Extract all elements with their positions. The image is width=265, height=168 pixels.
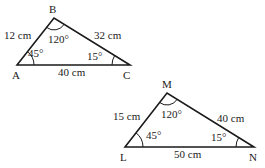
side-label-bc: 32 cm — [94, 29, 122, 41]
triangle-lmn: L M N 15 cm 40 cm 50 cm 45° 120° 15° — [113, 78, 257, 163]
vertex-label-n: N — [249, 151, 257, 163]
vertex-label-a: A — [12, 69, 20, 81]
side-label-ln: 50 cm — [174, 148, 202, 160]
side-label-lm: 15 cm — [113, 110, 141, 122]
vertex-label-c: C — [123, 69, 130, 81]
angle-label-a: 45° — [28, 47, 43, 59]
angle-arc-n — [236, 138, 239, 148]
side-label-ac: 40 cm — [58, 66, 86, 78]
angle-arc-c — [112, 56, 115, 66]
angle-arc-l — [136, 133, 143, 147]
side-label-mn: 40 cm — [217, 112, 245, 124]
angle-label-c: 15° — [87, 50, 102, 62]
vertex-label-m: M — [162, 78, 172, 90]
angle-label-n: 15° — [211, 131, 226, 143]
side-label-ab: 12 cm — [4, 29, 32, 41]
vertex-label-l: L — [120, 151, 127, 163]
vertex-label-b: B — [49, 3, 56, 15]
angle-label-m: 120° — [161, 108, 182, 120]
angle-label-l: 45° — [146, 129, 161, 141]
angle-label-b: 120° — [48, 33, 69, 45]
triangle-abc: A B C 12 cm 32 cm 40 cm 45° 120° 15° — [4, 3, 130, 81]
triangles-diagram: A B C 12 cm 32 cm 40 cm 45° 120° 15° L M… — [0, 0, 265, 168]
